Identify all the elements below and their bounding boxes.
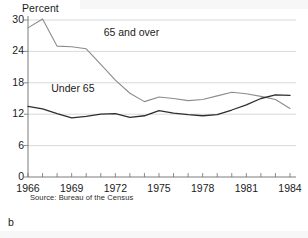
x-tick-label-1978: 1978 <box>191 182 214 194</box>
series-label-under-65: Under 65 <box>51 82 94 94</box>
y-tick-label-24: 24 <box>4 45 24 56</box>
figure-label: b <box>8 216 14 228</box>
y-tick-label-30: 30 <box>4 14 24 25</box>
x-tick-label-1972: 1972 <box>104 182 127 194</box>
source-note: Source: Bureau of the Census <box>30 193 133 202</box>
y-tick-label-6: 6 <box>4 140 24 151</box>
y-tick-label-18: 18 <box>4 77 24 88</box>
chart-container: Percent 65 and over Under 65 Source: Bur… <box>0 0 308 238</box>
y-tick-label-12: 12 <box>4 108 24 119</box>
x-tick-label-1969: 1969 <box>60 182 83 194</box>
x-tick-label-1975: 1975 <box>147 182 170 194</box>
y-tick-label-0: 0 <box>4 171 24 182</box>
x-tick-label-1984: 1984 <box>278 182 301 194</box>
series-label-65-and-over: 65 and over <box>104 26 159 38</box>
x-tick-label-1981: 1981 <box>235 182 258 194</box>
x-tick-label-1966: 1966 <box>16 182 39 194</box>
